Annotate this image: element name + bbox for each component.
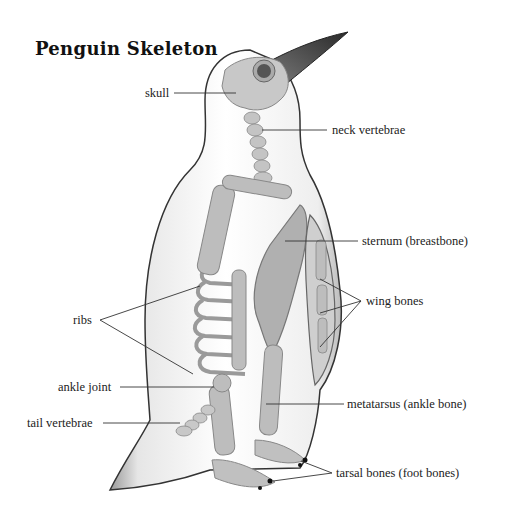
leader-tarsal-1 — [301, 461, 332, 473]
label-sternum: sternum (breastbone) — [362, 234, 468, 248]
label-metatarsus: metatarsus (ankle bone) — [347, 397, 466, 411]
label-neck-vertebrae: neck vertebrae — [332, 123, 405, 137]
diagram-title: Penguin Skeleton — [35, 38, 218, 59]
wing-bones — [316, 240, 327, 353]
leader-tarsal-2 — [273, 473, 332, 481]
label-tail-vertebrae: tail vertebrae — [27, 416, 93, 430]
penguin-skeleton-diagram: Penguin Skeleton skull neck vertebrae st… — [0, 0, 510, 519]
label-ribs: ribs — [73, 313, 92, 327]
label-wing-bones: wing bones — [366, 294, 423, 308]
penguin-illustration — [0, 0, 510, 519]
label-tarsal-bones: tarsal bones (foot bones) — [336, 466, 459, 480]
label-ankle-joint: ankle joint — [58, 380, 111, 394]
label-skull: skull — [145, 86, 169, 100]
